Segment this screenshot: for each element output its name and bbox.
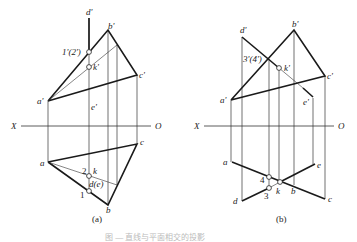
point-k-a <box>87 174 92 179</box>
point-1-2-prime <box>87 50 92 55</box>
label-3-4-prime: 3'(4') <box>242 54 262 64</box>
axis-x-label-a: X <box>10 121 17 131</box>
label-b-prime-b: b' <box>292 19 300 29</box>
label-2-a: 2 <box>82 166 87 176</box>
aux-line-front-a <box>48 45 117 101</box>
point-4-b <box>267 175 272 180</box>
label-b-a: b <box>106 205 111 215</box>
figure-caption: 图 — 直线与平面相交的投影 <box>105 232 205 242</box>
panel-a: X O d' b' 1'(2') k' c' a' e' a c 2 k d <box>10 7 162 224</box>
label-c-b: c <box>328 194 332 204</box>
label-k-b: k <box>276 186 281 196</box>
panel-caption-a: (a) <box>92 214 102 224</box>
label-1-a: 1 <box>80 190 85 200</box>
axis-x-label-b: X <box>193 121 200 131</box>
label-e-prime-a: e' <box>91 102 98 112</box>
label-c-prime-b: c' <box>327 71 334 81</box>
point-3-b <box>267 186 272 191</box>
line-de-top-right <box>280 164 315 182</box>
label-d-prime-b: d' <box>240 25 248 35</box>
label-a-prime-a: a' <box>37 96 45 106</box>
label-d-b: d <box>233 196 238 206</box>
label-k-a: k <box>93 166 98 176</box>
projection-figure: X O d' b' 1'(2') k' c' a' e' a c 2 k d <box>0 0 357 242</box>
label-a-prime-b: a' <box>220 95 228 105</box>
label-4-b: 4 <box>260 175 265 185</box>
label-e-prime-b: e' <box>303 97 310 107</box>
label-1-2-prime: 1'(2') <box>62 47 81 57</box>
panel-b: X O d' b' 3'(4') k' c' a' e' a <box>193 19 345 224</box>
label-3-b: 3 <box>264 191 269 201</box>
point-k-prime-b <box>277 66 282 71</box>
axis-o-label-a: O <box>155 121 162 131</box>
line-de-front-end-b <box>303 88 313 97</box>
label-k-prime-b: k' <box>284 63 291 73</box>
panel-caption-b: (b) <box>276 214 287 224</box>
axis-o-label-b: O <box>338 121 345 131</box>
label-c-prime-a: c' <box>139 70 146 80</box>
label-d-prime-a: d' <box>86 7 94 17</box>
label-k-prime-a: k' <box>93 62 100 72</box>
label-c-a: c <box>140 137 144 147</box>
label-a-b: a <box>223 157 228 167</box>
label-b-prime-a: b' <box>108 21 116 31</box>
point-k-b <box>278 180 283 185</box>
point-1-a <box>87 189 92 194</box>
label-a-a: a <box>40 158 45 168</box>
label-b-b: b <box>291 186 296 196</box>
label-e-b: e <box>317 160 321 170</box>
point-k-prime-a <box>87 65 92 70</box>
label-d-e-a: d(e) <box>89 179 104 189</box>
